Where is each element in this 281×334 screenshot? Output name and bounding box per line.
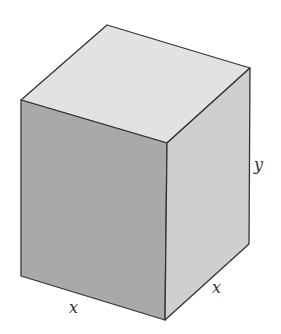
front-width-label: x [69,298,78,317]
depth-label: x [212,278,221,297]
prism-diagram: x x y [0,0,281,334]
height-label: y [253,155,264,174]
